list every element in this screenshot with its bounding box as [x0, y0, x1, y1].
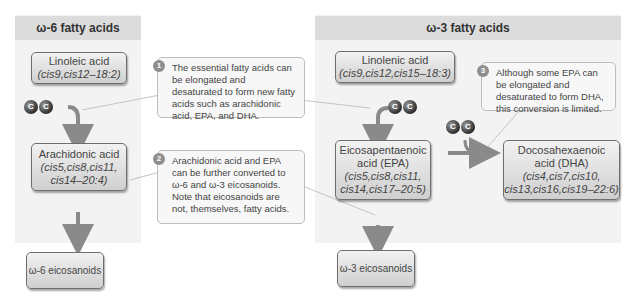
dha-name-1: Docosahexaenoic [504, 144, 619, 157]
linolenic-acid-name: Linolenic acid [336, 54, 454, 67]
epa-box: Eicosapentaenoic acid (EPA) (cis5,cis8,c… [335, 140, 431, 200]
omega6-eicosanoids-label: ω-6 eicosanoids [27, 264, 103, 277]
epa-formula-2: cis14,cis17–20:5) [336, 183, 430, 196]
carbon-pair-omega6: C C [24, 100, 53, 114]
note-3: Although some EPA can be elongated and d… [481, 62, 616, 111]
dha-box: Docosahexaenoic acid (DHA) (cis4,cis7,ci… [503, 140, 620, 200]
linoleic-acid-name: Linoleic acid [32, 55, 126, 68]
omega3-eicosanoids-box: ω-3 eicosanoids [337, 250, 415, 287]
linolenic-acid-box: Linolenic acid (cis9,cis12,cis15–18:3) [335, 51, 455, 83]
arachidonic-acid-formula-1: (cis5,cis8,cis11, [32, 161, 126, 174]
note-3-text: Although some EPA can be elongated and d… [496, 67, 604, 114]
note-1: The essential fatty acids can be elongat… [157, 57, 305, 118]
carbon-atom-icon: C [388, 100, 402, 114]
note-2: Arachidonic acid and EPA can be further … [157, 150, 305, 224]
carbon-pair-omega3-epa: C C [388, 100, 417, 114]
arachidonic-acid-box: Arachidonic acid (cis5,cis8,cis11, cis14… [31, 143, 127, 191]
carbon-atom-icon: C [446, 120, 460, 134]
carbon-pair-omega3-dha: C C [446, 120, 475, 134]
carbon-atom-icon: C [39, 100, 53, 114]
dha-name-2: acid (DHA) [504, 157, 619, 170]
note-1-number-icon: 1 [153, 60, 165, 72]
arachidonic-acid-formula-2: cis14–20:4) [32, 174, 126, 187]
note-1-text: The essential fatty acids can be elongat… [172, 62, 295, 121]
note-2-number-icon: 2 [153, 153, 165, 165]
carbon-atom-icon: C [24, 100, 38, 114]
linoleic-acid-formula: (cis9,cis12–18:2) [32, 68, 126, 81]
epa-name-1: Eicosapentaenoic [336, 144, 430, 157]
omega6-eicosanoids-box: ω-6 eicosanoids [26, 252, 104, 289]
epa-formula-1: (cis5,cis8,cis11, [336, 170, 430, 183]
arachidonic-acid-name: Arachidonic acid [32, 148, 126, 161]
carbon-atom-icon: C [461, 120, 475, 134]
note-3-number-icon: 3 [477, 65, 489, 77]
dha-formula-1: (cis4,cis7,cis10, [504, 170, 619, 183]
dha-formula-2: cis13,cis16,cis19–22:6) [504, 183, 619, 196]
note-2-text: Arachidonic acid and EPA can be further … [172, 155, 289, 214]
epa-name-2: acid (EPA) [336, 157, 430, 170]
linolenic-acid-formula: (cis9,cis12,cis15–18:3) [336, 67, 454, 80]
carbon-atom-icon: C [403, 100, 417, 114]
linoleic-acid-box: Linoleic acid (cis9,cis12–18:2) [31, 52, 127, 84]
omega3-eicosanoids-label: ω-3 eicosanoids [338, 262, 414, 275]
